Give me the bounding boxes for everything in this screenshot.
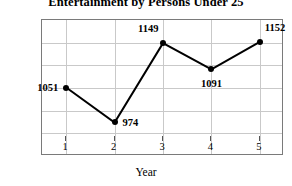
data-point-marker <box>257 39 263 45</box>
data-point-label: 1091 <box>201 78 222 89</box>
chart-title: Entertainment by Persons Under 25 <box>0 0 292 10</box>
x-axis-tick-label: 2 <box>99 141 129 152</box>
x-axis-tick-label: 1 <box>50 141 80 152</box>
data-point-label: 1149 <box>138 23 158 34</box>
x-axis-tick-label: 5 <box>244 141 274 152</box>
data-point-label: 1152 <box>265 22 285 33</box>
x-axis-tick-label: 3 <box>147 141 177 152</box>
x-axis-tick-label: 4 <box>195 141 225 152</box>
data-point-label: 974 <box>123 117 139 128</box>
data-point-label: 1051 <box>37 82 58 93</box>
plot-area: 1051974114910911152 <box>41 19 283 155</box>
x-axis-title: Year <box>0 166 292 178</box>
data-point-marker <box>63 85 69 91</box>
line-chart: Entertainment by Persons Under 25 Amount… <box>0 0 292 186</box>
